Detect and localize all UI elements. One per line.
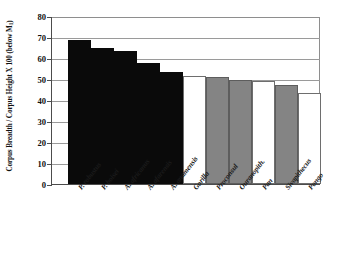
y-axis-tick: [47, 59, 52, 60]
y-axis-tick-label: 10: [37, 159, 46, 169]
y-axis-tick: [47, 101, 52, 102]
y-axis-title: Corpus Breadth / Corpus Height X 100 (be…: [6, 6, 14, 186]
y-axis-tick-label: 30: [37, 117, 46, 127]
x-axis-labels: P. robustusP. boiseiA. africanusA. afare…: [51, 186, 320, 259]
bar-chart: Corpus Breadth / Corpus Height X 100 (be…: [0, 0, 337, 259]
y-axis-tick: [47, 143, 52, 144]
y-axis-tick: [47, 80, 52, 81]
y-axis-tick-label: 70: [37, 33, 46, 43]
y-axis-tick-label: 0: [42, 180, 46, 190]
y-axis-title-tail: ): [6, 20, 14, 22]
y-axis-title-text: Corpus Breadth / Corpus Height X 100 (be…: [6, 25, 14, 171]
plot-area: 80706050403020100: [51, 17, 320, 185]
y-axis-tick: [47, 17, 52, 18]
y-axis-title-subscript: 1: [8, 23, 14, 26]
bar-a-africanus: [114, 51, 137, 184]
bar-proconsul: [206, 77, 229, 184]
bar-p-robustus: [68, 40, 91, 184]
y-axis-tick-label: 60: [37, 54, 46, 64]
y-axis-tick: [47, 122, 52, 123]
y-axis-tick-label: 20: [37, 138, 46, 148]
y-axis-tick-label: 80: [37, 12, 46, 22]
y-axis-tick: [47, 38, 52, 39]
y-axis-tick-label: 50: [37, 75, 46, 85]
y-axis-title-container: Corpus Breadth / Corpus Height X 100 (be…: [0, 0, 18, 200]
y-axis-tick: [47, 164, 52, 165]
y-axis-tick-label: 40: [37, 96, 46, 106]
